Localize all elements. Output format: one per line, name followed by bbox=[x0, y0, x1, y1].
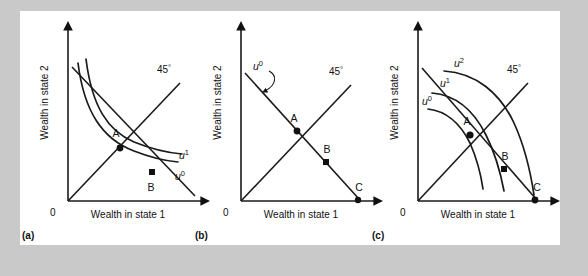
diagonal-label-value: 45 bbox=[507, 64, 519, 75]
indifference-curve-u0 bbox=[428, 109, 483, 189]
diagonal-label: 45° bbox=[157, 63, 171, 75]
point-marker-b bbox=[149, 169, 155, 175]
45-degree-line bbox=[68, 83, 180, 201]
curve-label-u2: u2 bbox=[454, 56, 464, 69]
point-label-c: C bbox=[355, 181, 363, 193]
curve-label-u0: u0 bbox=[253, 59, 263, 72]
diagonal-label: 45° bbox=[507, 63, 521, 75]
curve-label-u1-exponent: 1 bbox=[446, 76, 450, 85]
point-label-b: B bbox=[323, 143, 330, 155]
curve-label-u1-exponent: 1 bbox=[185, 148, 189, 157]
45-degree-line bbox=[241, 85, 351, 201]
point-label-b: B bbox=[147, 181, 154, 193]
indifference-curve-u0 bbox=[78, 63, 178, 162]
point-marker-c bbox=[532, 197, 539, 204]
curve-label-u0-exponent: 0 bbox=[428, 94, 432, 103]
y-axis-label: Wealth in state 2 bbox=[389, 33, 400, 173]
u0-leader-arrow bbox=[265, 71, 275, 91]
point-label-a: A bbox=[463, 115, 470, 127]
curve-label-u1: u1 bbox=[440, 76, 450, 89]
panel-c: A B C u2 u1 u0 45° Wealth in state 2 0 W… bbox=[380, 11, 560, 245]
point-marker-a bbox=[466, 131, 473, 138]
indifference-curve-u1 bbox=[432, 93, 504, 191]
point-marker-c bbox=[355, 197, 361, 203]
panel-letter-b: (b) bbox=[195, 230, 208, 241]
figure-root: A B u1 u0 45° Wealth in state 2 0 Wealth… bbox=[0, 0, 588, 276]
indifference-curve-u2 bbox=[444, 71, 534, 195]
figure-white-panel: A B u1 u0 45° Wealth in state 2 0 Wealth… bbox=[20, 11, 560, 245]
diagonal-label-degree: ° bbox=[518, 63, 521, 72]
panel-letter-a: (a) bbox=[22, 230, 34, 241]
curve-label-u0: u0 bbox=[422, 94, 432, 107]
origin-label: 0 bbox=[223, 207, 229, 218]
panel-a: A B u1 u0 45° Wealth in state 2 0 Wealth… bbox=[30, 11, 210, 245]
panel-letter-c: (c) bbox=[372, 230, 384, 241]
diagonal-label-value: 45 bbox=[157, 64, 169, 75]
x-axis-label: Wealth in state 1 bbox=[231, 209, 371, 220]
point-marker-a bbox=[117, 145, 124, 152]
point-marker-a bbox=[294, 128, 301, 135]
point-label-a: A bbox=[112, 127, 119, 139]
x-axis-label: Wealth in state 1 bbox=[408, 209, 548, 220]
y-axis-label: Wealth in state 2 bbox=[39, 33, 50, 173]
diagonal-label: 45° bbox=[329, 65, 343, 77]
45-degree-line bbox=[418, 83, 528, 201]
curve-label-u0-exponent: 0 bbox=[181, 169, 185, 178]
panel-b: A B C u0 45° Wealth in state 2 0 Wealth … bbox=[203, 11, 383, 245]
y-axis-label: Wealth in state 2 bbox=[212, 33, 223, 173]
point-marker-b bbox=[323, 159, 329, 165]
origin-label: 0 bbox=[400, 207, 406, 218]
indifference-curve-u0 bbox=[245, 73, 359, 199]
curve-label-u0: u0 bbox=[175, 169, 185, 182]
diagonal-label-degree: ° bbox=[340, 65, 343, 74]
curve-label-u0-exponent: 0 bbox=[259, 59, 263, 68]
origin-label: 0 bbox=[50, 207, 56, 218]
point-label-a: A bbox=[290, 112, 297, 124]
point-label-c: C bbox=[533, 181, 541, 193]
x-axis-label: Wealth in state 1 bbox=[58, 209, 198, 220]
point-marker-b bbox=[501, 166, 507, 172]
point-label-b: B bbox=[501, 150, 508, 162]
diagonal-label-value: 45 bbox=[329, 66, 341, 77]
diagonal-label-degree: ° bbox=[168, 63, 171, 72]
curve-label-u1: u1 bbox=[179, 148, 189, 161]
curve-label-u2-exponent: 2 bbox=[460, 56, 464, 65]
